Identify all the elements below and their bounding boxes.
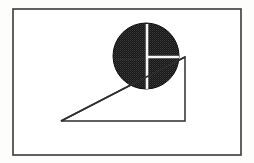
- figure-canvas: [0, 0, 254, 163]
- geometric-figure: [0, 0, 254, 163]
